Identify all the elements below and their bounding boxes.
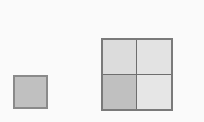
quadrant-top-right [137, 40, 171, 75]
quadrant-top-left [103, 40, 137, 75]
quadrant-bottom-left [103, 75, 137, 110]
small-square [13, 75, 48, 109]
figure-canvas [0, 0, 204, 122]
large-square-grid [101, 38, 173, 111]
quadrant-bottom-right [137, 75, 171, 110]
